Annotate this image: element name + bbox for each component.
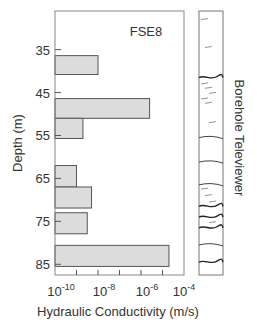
chart-title: FSE8 — [130, 24, 163, 39]
bar-6 — [55, 213, 87, 234]
x-tick-label: 10-4 — [173, 282, 195, 299]
bar-2 — [55, 99, 150, 119]
x-tick-exp: -4 — [187, 282, 195, 292]
x-tick-base: 10 — [136, 284, 150, 299]
y-tick-label: 85 — [36, 257, 50, 272]
x-tick-base: 10 — [93, 284, 107, 299]
y-tick-label: 55 — [36, 128, 50, 143]
x-tick-base: 10 — [47, 284, 61, 299]
bars-group — [55, 56, 169, 267]
y-ticks: 354555657585 — [36, 43, 61, 273]
y-tick-label: 65 — [36, 171, 50, 186]
chart: 10-1010-810-610-4 354555657585 FSE8 Hydr… — [0, 0, 257, 329]
x-tick-exp: -10 — [62, 282, 75, 292]
televiewer-label: Borehole Televiewer — [232, 80, 247, 197]
bar-5 — [55, 187, 92, 208]
x-ticks: 10-1010-810-610-4 — [47, 270, 195, 299]
x-tick-label: 10-6 — [136, 282, 158, 299]
x-tick-label: 10-8 — [93, 282, 115, 299]
y-tick-label: 35 — [36, 43, 50, 58]
y-axis-label: Depth (m) — [10, 114, 25, 172]
x-tick-exp: -8 — [107, 282, 115, 292]
plot-frame — [55, 11, 184, 275]
x-tick-base: 10 — [173, 284, 187, 299]
bar-7 — [55, 245, 169, 266]
x-axis-label: Hydraulic Conductivity (m/s) — [37, 304, 199, 319]
bar-4 — [55, 166, 77, 187]
y-tick-label: 75 — [36, 214, 50, 229]
bar-1 — [55, 56, 98, 75]
x-tick-label: 10-10 — [47, 282, 74, 299]
y-tick-label: 45 — [36, 86, 50, 101]
x-tick-exp: -6 — [150, 282, 158, 292]
televiewer-strip — [199, 11, 223, 275]
